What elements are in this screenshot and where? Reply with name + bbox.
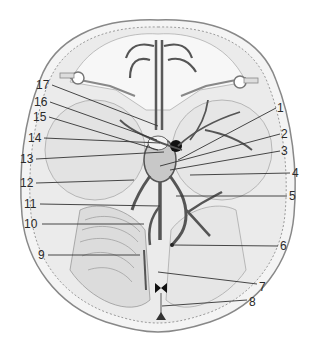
label-14: 14 (28, 132, 41, 144)
label-5: 5 (289, 190, 296, 202)
label-4: 4 (292, 167, 299, 179)
label-12: 12 (20, 177, 33, 189)
label-17: 17 (36, 79, 49, 91)
label-2: 2 (281, 128, 288, 140)
label-11: 11 (24, 198, 36, 210)
label-10: 10 (24, 218, 37, 230)
label-9: 9 (38, 249, 45, 261)
label-7: 7 (259, 281, 266, 293)
label-6: 6 (280, 240, 287, 252)
label-8: 8 (249, 296, 256, 308)
middle-fossa-right (172, 100, 272, 200)
skull-base-illustration (0, 0, 316, 343)
label-15: 15 (33, 111, 46, 123)
label-3: 3 (281, 145, 288, 157)
label-1: 1 (277, 102, 284, 114)
anatomy-figure: 1234567891011121314151617 (0, 0, 316, 343)
label-13: 13 (20, 153, 33, 165)
label-16: 16 (34, 96, 47, 108)
